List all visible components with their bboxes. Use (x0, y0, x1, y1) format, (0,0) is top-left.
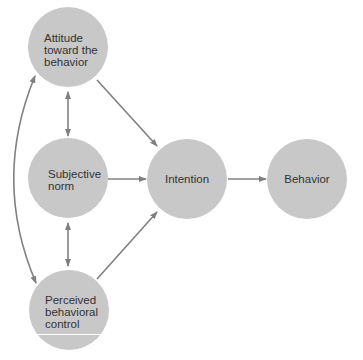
label-attitude: Attitude toward the behavior (44, 32, 98, 68)
label-perceived-control: Perceived behavioral control (45, 294, 98, 330)
theory-of-planned-behavior-diagram: Attitude toward the behavior Subjective … (0, 0, 363, 360)
edge-control-intention (97, 212, 157, 279)
label-subjective-norm: Subjective norm (48, 168, 101, 192)
highlight-line (38, 334, 100, 335)
label-intention: Intention (147, 173, 227, 185)
label-behavior: Behavior (267, 173, 347, 185)
edge-attitude-intention (97, 80, 157, 146)
